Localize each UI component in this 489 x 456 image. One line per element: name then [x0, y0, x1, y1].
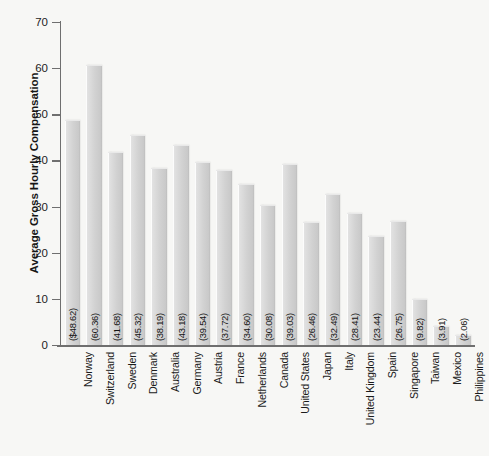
bar-value-label: ($48.62)	[67, 308, 78, 341]
x-axis-label: Switzerland	[104, 352, 116, 405]
bar-value-label: (9.82)	[414, 318, 425, 341]
y-axis-tick-label: 50	[4, 108, 48, 120]
bar-value-label: (26.75)	[392, 313, 403, 341]
x-axis-label: Philippines	[473, 352, 485, 402]
bar-value-label: (2.06)	[457, 318, 468, 341]
x-axis-label: Mexico	[451, 352, 463, 385]
y-axis-tick-label: 60	[4, 62, 48, 74]
x-axis-label: Norway	[82, 352, 94, 387]
y-axis-tick-label: 20	[4, 247, 48, 259]
x-axis-label: Canada	[278, 352, 290, 388]
bar[interactable]: (30.08)	[260, 205, 276, 345]
bar-value-label: (39.54)	[197, 313, 208, 341]
x-axis-label: Australia	[169, 352, 181, 392]
bar-value-label: (39.03)	[284, 313, 295, 341]
bar[interactable]: (32.49)	[325, 194, 341, 345]
bar-chart: Average Gross Hourly Compensation 010203…	[0, 0, 489, 456]
x-axis-label: Singapore	[408, 352, 420, 399]
bar[interactable]: (34.60)	[238, 184, 254, 345]
bar[interactable]: (39.54)	[195, 162, 211, 345]
x-axis-label: Denmark	[147, 352, 159, 394]
bar[interactable]: (37.72)	[216, 170, 232, 345]
bar[interactable]: (39.03)	[282, 164, 298, 345]
y-axis-tick-label: 10	[4, 293, 48, 305]
x-axis-label: Spain	[386, 352, 398, 378]
y-axis-tick-label: 70	[4, 16, 48, 28]
x-axis-label: Netherlands	[256, 352, 268, 407]
y-axis-tick	[52, 22, 60, 23]
bar[interactable]: (9.82)	[412, 299, 428, 345]
bar[interactable]: ($48.62)	[65, 120, 81, 345]
y-axis-tick	[52, 253, 60, 254]
x-axis-label: Sweden	[126, 352, 138, 389]
x-axis-label: United States	[299, 352, 311, 414]
bar[interactable]: (23.44)	[368, 236, 384, 345]
x-axis-label: Germany	[191, 352, 203, 395]
bar-value-label: (28.41)	[349, 313, 360, 341]
bar[interactable]: (45.32)	[130, 135, 146, 345]
bar-value-label: (38.19)	[154, 313, 165, 341]
plot-area: ($48.62)(60.36)(41.68)(45.32)(38.19)(43.…	[60, 22, 480, 345]
y-axis-tick-label: 40	[4, 154, 48, 166]
bar-value-label: (26.46)	[305, 313, 316, 341]
bar-value-label: (45.32)	[132, 313, 143, 341]
bar[interactable]: (41.68)	[108, 152, 124, 345]
x-axis-label: Japan	[321, 352, 333, 380]
x-axis-label: Italy	[343, 352, 355, 371]
bar-value-label: (43.18)	[175, 313, 186, 341]
y-axis-tick	[52, 114, 60, 115]
bar[interactable]: (26.75)	[390, 221, 406, 345]
x-axis-label: Taiwan	[429, 352, 441, 384]
bar-value-label: (30.08)	[262, 313, 273, 341]
bar[interactable]: (3.91)	[433, 326, 449, 345]
bar[interactable]: (38.19)	[151, 168, 167, 345]
x-axis-label: France	[234, 352, 246, 384]
bar[interactable]: (60.36)	[86, 65, 102, 345]
y-axis-tick	[52, 207, 60, 208]
bar-value-label: (60.36)	[88, 313, 99, 341]
bar-value-label: (23.44)	[371, 313, 382, 341]
bar[interactable]: (28.41)	[347, 213, 363, 345]
y-axis-tick	[52, 68, 60, 69]
bar[interactable]: (43.18)	[173, 145, 189, 345]
y-axis-tick	[52, 299, 60, 300]
bar[interactable]: (2.06)	[455, 335, 471, 346]
x-axis-label: United Kingdom	[364, 352, 376, 425]
y-axis-tick	[52, 160, 60, 161]
x-axis-line	[57, 345, 475, 347]
bar-value-label: (34.60)	[240, 313, 251, 341]
bar-value-label: (37.72)	[219, 313, 230, 341]
y-axis-tick-label: 0	[4, 339, 48, 351]
bar-value-label: (32.49)	[327, 313, 338, 341]
bar-value-label: (3.91)	[436, 318, 447, 341]
x-axis-label: Austria	[212, 352, 224, 384]
bar[interactable]: (26.46)	[303, 222, 319, 345]
bar-value-label: (41.68)	[110, 313, 121, 341]
y-axis-tick-label: 30	[4, 201, 48, 213]
